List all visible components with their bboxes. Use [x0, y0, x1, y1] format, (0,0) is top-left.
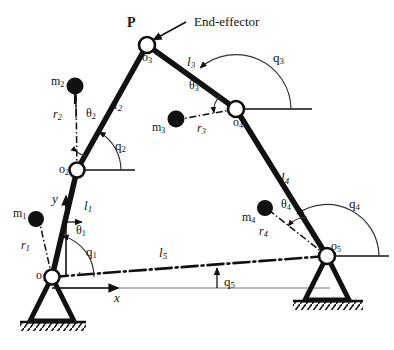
- figure-canvas: P End-effector x y o1 o2 o3 o4 o5 l1 l2 …: [0, 0, 394, 350]
- angle-label-q5: q5: [224, 275, 235, 288]
- com-label-r2: r2: [53, 108, 62, 120]
- mass-label-m4: m4: [242, 211, 255, 223]
- mass-m2: [67, 78, 84, 95]
- joint-label-o3: o3: [142, 51, 152, 63]
- r4-vector: [270, 211, 327, 256]
- mass-label-m3: m3: [152, 121, 165, 133]
- x-axis-label: x: [114, 291, 120, 304]
- joint-label-o5: o5: [331, 240, 341, 252]
- mass-m1: [28, 211, 44, 227]
- point-p-label: P: [127, 16, 136, 30]
- com-vectors: [40, 109, 327, 277]
- link-label-l5: l5: [159, 246, 167, 259]
- link-label-l2: l2: [114, 98, 122, 111]
- link-label-l4: l4: [281, 171, 289, 184]
- joint-label-o1: o1: [36, 269, 46, 281]
- joint-label-o2: o2: [59, 163, 69, 175]
- joint-reference-lines: [77, 109, 389, 256]
- com-label-r1: r1: [21, 239, 30, 251]
- mass-m3: [168, 111, 185, 128]
- mass-label-m1: m1: [13, 207, 26, 219]
- link-label-l1: l1: [84, 199, 92, 212]
- joint-label-o4: o4: [233, 116, 243, 128]
- mass-label-m2: m2: [51, 75, 64, 87]
- angle-label-q1: q1: [86, 245, 97, 258]
- end-effector-label: End-effector: [194, 15, 259, 28]
- angle-label-theta1: θ1: [76, 224, 86, 236]
- angle-q5-indicator: [78, 268, 217, 288]
- com-label-r4: r4: [259, 225, 268, 237]
- end-effector-pointer: [153, 22, 186, 40]
- com-label-r3: r3: [197, 122, 206, 134]
- angle-label-q4: q4: [349, 197, 360, 210]
- angle-label-theta2: θ2: [86, 107, 96, 119]
- angle-label-q2: q2: [115, 139, 126, 152]
- y-axis-label: y: [52, 192, 58, 205]
- mass-m4: [257, 200, 273, 216]
- link-l1: [52, 170, 77, 277]
- angle-label-theta4: θ4: [281, 198, 291, 210]
- joint-o1: [45, 270, 60, 285]
- link-label-l3: l3: [187, 55, 195, 68]
- angle-label-theta3: θ3: [189, 79, 199, 91]
- joint-o2: [70, 163, 85, 178]
- angle-label-q3: q3: [273, 51, 284, 64]
